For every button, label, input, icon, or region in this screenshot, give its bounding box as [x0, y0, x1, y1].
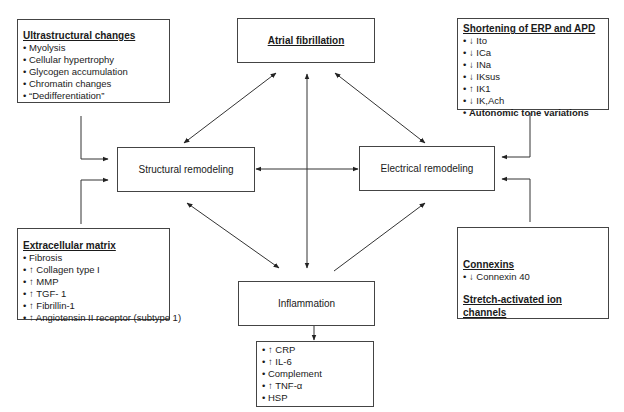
list-item: ↑ MMP	[23, 276, 164, 288]
list-item: ↓ IKsus	[463, 71, 603, 83]
erp-apd-box: Shortening of ERP and APD ↓ Ito ↓ ICa ↓ …	[457, 18, 609, 110]
autonomic-tone-item: Autonomic tone variations	[463, 107, 603, 119]
arrow-erp-electrical	[502, 113, 530, 157]
ultrastructural-heading: Ultrastructural changes	[23, 29, 164, 42]
list-item: Glycogen accumulation	[23, 66, 164, 78]
list-item: ↑ TGF- 1	[23, 288, 164, 300]
arrow-extracellular-structural	[81, 180, 108, 224]
erp-apd-heading: Shortening of ERP and APD	[463, 22, 603, 35]
list-item: Complement	[262, 368, 368, 380]
list-item: ↑ CRP	[262, 344, 368, 356]
arrow-structural-inflammation	[187, 203, 279, 268]
list-item: ↑ Fibrillin-1	[23, 300, 164, 312]
atrial-fibrillation-label: Atrial fibrillation	[268, 35, 345, 46]
connexins-heading: Connexins	[463, 258, 603, 271]
list-item: ↓ IK,Ach	[463, 95, 603, 107]
arrow-af-electrical	[335, 73, 425, 143]
list-item: ↑ IK1	[463, 83, 603, 95]
arrow-connexins-electrical	[502, 179, 530, 222]
arrow-inflammation-electrical	[334, 203, 425, 271]
structural-remodeling-label: Structural remodeling	[138, 164, 233, 175]
list-item: Fibrosis	[23, 252, 164, 264]
inflammation-markers-list: ↑ CRP ↑ IL-6 Complement ↑ TNF-α HSP	[262, 344, 368, 404]
list-item: HSP	[262, 392, 368, 404]
list-item: ↑ Angiotensin II receptor (subtype 1)	[23, 312, 164, 324]
list-item: Cellular hypertrophy	[23, 54, 164, 66]
connexins-box: Connexins ↓ Connexin 40 Stretch-activate…	[457, 227, 609, 319]
list-item: ↓ ICa	[463, 47, 603, 59]
inflammation-label: Inflammation	[278, 298, 335, 309]
list-item: Chromatin changes	[23, 78, 164, 90]
inflammation-markers-box: ↑ CRP ↑ IL-6 Complement ↑ TNF-α HSP	[256, 341, 374, 407]
structural-remodeling-box: Structural remodeling	[117, 147, 255, 192]
connexins-list: ↓ Connexin 40	[463, 271, 603, 283]
erp-apd-list: ↓ Ito ↓ ICa ↓ INa ↓ IKsus ↑ IK1 ↓ IK,Ach…	[463, 35, 603, 119]
electrical-remodeling-box: Electrical remodeling	[359, 146, 495, 191]
ultrastructural-changes-box: Ultrastructural changes Myolysis Cellula…	[17, 19, 170, 103]
electrical-remodeling-label: Electrical remodeling	[381, 163, 474, 174]
list-item: ↑ Collagen type I	[23, 264, 164, 276]
extracellular-list: Fibrosis ↑ Collagen type I ↑ MMP ↑ TGF- …	[23, 252, 164, 324]
atrial-fibrillation-box: Atrial fibrillation	[237, 18, 375, 63]
list-item: “Dedifferentiation”	[23, 90, 164, 102]
list-item: ↑ IL-6	[262, 356, 368, 368]
stretch-channels-heading: Stretch-activated ion channels	[463, 293, 603, 319]
list-item: ↓ Ito	[463, 35, 603, 47]
list-item: ↓ INa	[463, 59, 603, 71]
list-item: ↑ TNF-α	[262, 380, 368, 392]
list-item: Myolysis	[23, 42, 164, 54]
list-item: ↓ Connexin 40	[463, 271, 603, 283]
inflammation-box: Inflammation	[238, 281, 375, 326]
ultrastructural-list: Myolysis Cellular hypertrophy Glycogen a…	[23, 42, 164, 102]
arrow-ultrastructural-structural	[81, 116, 108, 159]
extracellular-heading: Extracellular matrix	[23, 239, 164, 252]
arrow-af-structural	[184, 73, 276, 143]
extracellular-matrix-box: Extracellular matrix Fibrosis ↑ Collagen…	[17, 228, 170, 320]
